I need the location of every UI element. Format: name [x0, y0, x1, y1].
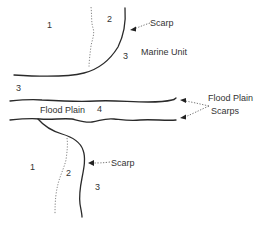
upper-scarp-leader — [134, 23, 150, 29]
upper-unit-3-label: 3 — [123, 51, 128, 61]
lower-unit-2-label: 2 — [66, 168, 71, 178]
flood-plain-lower-scarp — [10, 119, 176, 123]
flood-plain-scarps-arrowhead-lower — [180, 115, 186, 120]
unit-4-label: 4 — [97, 104, 102, 114]
marine-unit-label: Marine Unit — [141, 47, 188, 57]
lower-scarp-leader — [92, 162, 110, 163]
upper-unit-3-left-label: 3 — [16, 83, 21, 93]
flood-plain-section: Flood Plain 4 Flood Plain Scarps — [10, 93, 253, 122]
flood-plain-upper-scarp — [10, 98, 176, 102]
flood-plain-scarps-label-line1: Flood Plain — [208, 93, 253, 103]
upper-unit-2-label: 2 — [107, 14, 112, 24]
upper-scarp-label: Scarp — [150, 18, 174, 28]
flood-plain-scarps-arrowhead-upper — [180, 98, 186, 103]
upper-scarp-arrowhead — [130, 27, 136, 32]
upper-contact-line — [89, 7, 94, 68]
upper-section: 1 2 3 3 Scarp Marine Unit — [14, 7, 188, 93]
lower-section: 1 2 3 Scarp — [30, 119, 135, 217]
flood-plain-label: Flood Plain — [40, 105, 85, 115]
lower-scarp-line — [38, 119, 85, 217]
geomorphic-diagram: 1 2 3 3 Scarp Marine Unit Flood Plain 4 … — [0, 0, 264, 225]
lower-unit-3-label: 3 — [95, 182, 100, 192]
upper-unit-1-label: 1 — [47, 20, 52, 30]
lower-scarp-arrowhead — [88, 160, 94, 166]
flood-plain-scarps-label-line2: Scarps — [211, 106, 240, 116]
flood-plain-scarps-leader-upper — [185, 101, 209, 106]
flood-plain-scarps-leader-lower — [185, 106, 209, 117]
lower-scarp-label: Scarp — [111, 158, 135, 168]
lower-unit-1-label: 1 — [30, 162, 35, 172]
